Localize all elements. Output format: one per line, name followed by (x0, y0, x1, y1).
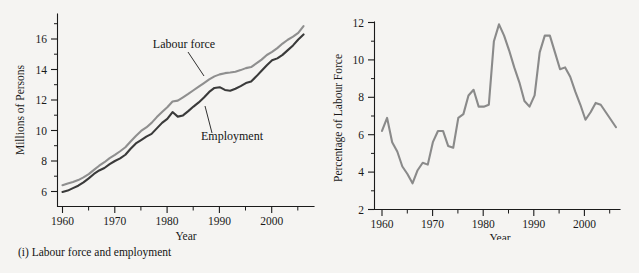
figure-container: 6 8 10 12 14 16 (0, 0, 639, 273)
y-axis-title: Millions of Persons (14, 64, 26, 155)
y-tick-label: 8 (358, 91, 364, 103)
y-tick-labels: 6 8 10 12 14 16 (36, 33, 48, 198)
x-minor-ticks (89, 207, 298, 211)
y-tick-label: 10 (36, 125, 48, 137)
x-tick-label: 1970 (421, 218, 444, 230)
panel-labour-force-employment: 6 8 10 12 14 16 (0, 0, 320, 273)
annotation-labour-force: Labour force (153, 37, 215, 51)
x-tick-labels: 1960 1970 1980 1990 2000 (371, 218, 597, 230)
x-axis-title: Year (175, 230, 196, 240)
x-minor-ticks (407, 210, 609, 214)
y-tick-label: 4 (358, 166, 364, 178)
y-tick-label: 12 (36, 94, 48, 106)
x-tick-label: 1980 (156, 215, 179, 227)
y-tick-label: 16 (36, 33, 48, 45)
x-tick-labels: 1960 1970 1980 1990 2000 (51, 215, 283, 227)
leader-line-labour-force (188, 52, 204, 76)
x-tick-label: 1980 (472, 218, 495, 230)
y-tick-label: 14 (36, 64, 48, 76)
series-line-unemployment-rate (382, 24, 616, 183)
chart-unemployment-rate: 2 4 6 8 10 12 (320, 0, 639, 240)
series-line-employment (63, 34, 304, 192)
y-tick-labels: 2 4 6 8 10 12 (353, 17, 365, 216)
y-tick-label: 12 (353, 17, 365, 29)
x-major-ticks (382, 210, 584, 217)
x-tick-label: 1990 (208, 215, 231, 227)
panel-caption-labour-force-employment: (i) Labour force and employment (18, 246, 171, 258)
x-tick-label: 1960 (371, 218, 394, 230)
y-tick-label: 6 (358, 129, 364, 141)
y-tick-label: 6 (41, 186, 47, 198)
x-tick-label: 1960 (51, 215, 74, 227)
y-tick-label: 8 (41, 155, 47, 167)
x-axis-title: Year (489, 232, 510, 240)
x-tick-label: 1970 (103, 215, 126, 227)
y-tick-label: 10 (353, 54, 365, 66)
x-tick-label: 2000 (573, 218, 596, 230)
y-tick-label: 2 (358, 204, 364, 216)
panel-unemployment-rate: 2 4 6 8 10 12 (320, 0, 639, 273)
y-axis-title: Percentage of Labour Force (332, 54, 345, 182)
x-tick-label: 2000 (260, 215, 283, 227)
x-tick-label: 1990 (522, 218, 545, 230)
chart-labour-force-employment: 6 8 10 12 14 16 (0, 0, 320, 240)
annotation-employment: Employment (201, 129, 264, 143)
x-major-ticks (63, 207, 272, 214)
